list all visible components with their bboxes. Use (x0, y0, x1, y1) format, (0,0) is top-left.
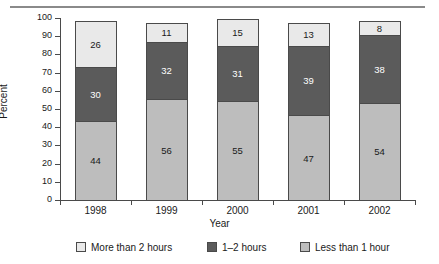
header-rule (10, 6, 425, 8)
y-tick-label: 10 (26, 177, 52, 186)
bar-segment-top[interactable]: 8 (359, 21, 401, 36)
legend-item[interactable]: Less than 1 hour (300, 239, 390, 255)
stacked-bar[interactable]: 263044 (75, 21, 117, 200)
y-tick-label: 40 (26, 122, 52, 131)
y-tick-label: 60 (26, 86, 52, 95)
stacked-bar[interactable]: 113256 (146, 23, 188, 200)
bar-segment-top[interactable]: 13 (288, 23, 330, 47)
x-tick (131, 200, 132, 205)
y-tick-label: 30 (26, 140, 52, 149)
y-tick-label: 0 (26, 195, 52, 204)
bar-segment-top[interactable]: 11 (146, 23, 188, 43)
bar-segment-mid[interactable]: 32 (146, 42, 188, 100)
y-tick-label: 20 (26, 159, 52, 168)
y-axis-title: Percent (0, 84, 9, 118)
x-tick (60, 200, 61, 205)
x-category-label: 2002 (350, 205, 410, 216)
x-tick (273, 200, 274, 205)
bar-segment-mid[interactable]: 31 (217, 46, 259, 102)
stacked-bar[interactable]: 133947 (288, 23, 330, 200)
legend-swatch-icon (76, 242, 86, 252)
x-category-label: 1998 (66, 205, 126, 216)
x-tick (344, 200, 345, 205)
legend-item[interactable]: 1–2 hours (207, 239, 266, 255)
bar-segment-bot[interactable]: 47 (288, 115, 330, 201)
bar-segment-mid[interactable]: 38 (359, 35, 401, 104)
legend-swatch-icon (300, 242, 310, 252)
legend-item[interactable]: More than 2 hours (76, 239, 172, 255)
chart-legend: More than 2 hours1–2 hoursLess than 1 ho… (0, 239, 439, 255)
x-category-label: 1999 (137, 205, 197, 216)
stacked-bar[interactable]: 153155 (217, 19, 259, 200)
y-tick-label: 70 (26, 68, 52, 77)
legend-label: 1–2 hours (222, 242, 266, 253)
bar-segment-bot[interactable]: 44 (75, 121, 117, 201)
bar-segment-bot[interactable]: 55 (217, 101, 259, 201)
x-tick (415, 200, 416, 205)
y-tick-label: 100 (26, 13, 52, 22)
bar-segment-mid[interactable]: 30 (75, 67, 117, 122)
y-tick-label: 80 (26, 49, 52, 58)
bar-segment-top[interactable]: 26 (75, 21, 117, 68)
legend-label: Less than 1 hour (315, 242, 390, 253)
stacked-bar[interactable]: 83854 (359, 21, 401, 200)
plot-area: 26304411325615315513394783854 (60, 18, 415, 200)
legend-label: More than 2 hours (91, 242, 172, 253)
bar-segment-bot[interactable]: 54 (359, 103, 401, 201)
y-tick-label: 50 (26, 104, 52, 113)
x-tick (202, 200, 203, 205)
x-category-label: 2001 (279, 205, 339, 216)
legend-swatch-icon (207, 242, 217, 252)
x-axis-title: Year (0, 218, 439, 229)
bar-segment-top[interactable]: 15 (217, 19, 259, 46)
x-category-label: 2000 (208, 205, 268, 216)
bar-segment-bot[interactable]: 56 (146, 99, 188, 201)
chart-figure: Percent 1009080706050403020100 263044113… (0, 0, 439, 264)
bar-segment-mid[interactable]: 39 (288, 46, 330, 117)
y-tick-label: 90 (26, 31, 52, 40)
